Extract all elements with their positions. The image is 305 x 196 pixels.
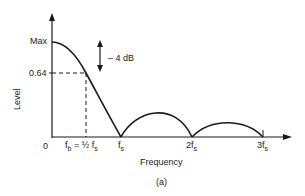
x-axis-arrow-icon [283, 134, 292, 140]
x-tick-2fs: 2fs [186, 141, 197, 152]
arrow-down-icon [97, 65, 103, 72]
x-tick-fs: fs [118, 141, 124, 152]
y-tick-064: 0.64 [29, 69, 47, 78]
figure-caption: (a) [156, 178, 167, 187]
x-tick-zero: 0 [43, 142, 48, 151]
x-tick-fb: fb = ½ fs [65, 141, 98, 152]
y-axis-label: Level [13, 88, 22, 110]
db-annotation: – 4 dB [108, 54, 134, 63]
arrow-up-icon [97, 40, 103, 47]
side-lobe-2-curve [192, 123, 263, 137]
x-tick-3fs: 3fs [257, 141, 268, 152]
side-lobe-1-curve [121, 113, 192, 137]
y-axis-arrow-icon [49, 13, 55, 21]
x-axis-label: Frequency [140, 158, 183, 167]
y-tick-max: Max [30, 37, 47, 46]
